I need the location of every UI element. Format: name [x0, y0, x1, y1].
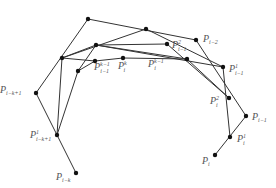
point-label: Pki	[117, 60, 127, 73]
point-label: P1i−1	[228, 63, 244, 76]
control-point-p1-i-1	[221, 65, 225, 69]
point-label: Pi−1	[251, 111, 267, 123]
control-point-pk1-i	[185, 57, 189, 61]
control-point-p2-b	[94, 43, 98, 47]
control-point-p-i-2	[194, 38, 198, 42]
point-label: Pk−1i	[147, 58, 164, 71]
point-label: Pi−k+1	[0, 84, 22, 96]
control-point-p2-i-1	[165, 42, 169, 46]
control-point-p1-i-k+1	[55, 133, 59, 137]
control-point-p-i-1	[244, 114, 248, 118]
point-label: Pi−k	[55, 171, 71, 183]
level-1-polygon	[57, 29, 230, 137]
control-point-p-i	[213, 153, 217, 157]
control-point-p-top	[86, 17, 90, 21]
control-point-p1-b	[144, 27, 148, 31]
point-label: Pi−2	[202, 33, 218, 45]
control-point-p1-a	[60, 56, 64, 60]
level-1-inner	[62, 45, 223, 67]
level-2-inner	[96, 45, 229, 98]
point-label: P1i−k+1	[29, 129, 51, 142]
control-point-p-i-k	[74, 171, 78, 175]
control-point-p1-i	[228, 135, 232, 139]
de-boor-diagram: Pi−kPi−k+1Pi−2Pi−1PiP1i−k+1P1i−1P1iP2i−1…	[0, 0, 276, 188]
point-label: P2i	[209, 95, 219, 108]
control-point-p2-i	[227, 96, 231, 100]
point-label: Pk−1i−1	[93, 61, 110, 74]
control-point-p2-a	[76, 69, 80, 73]
point-label: P1i	[236, 133, 246, 146]
level-k-inner	[62, 58, 95, 61]
control-point-p-i-k+1	[34, 91, 38, 95]
point-label: Pi	[201, 155, 210, 167]
